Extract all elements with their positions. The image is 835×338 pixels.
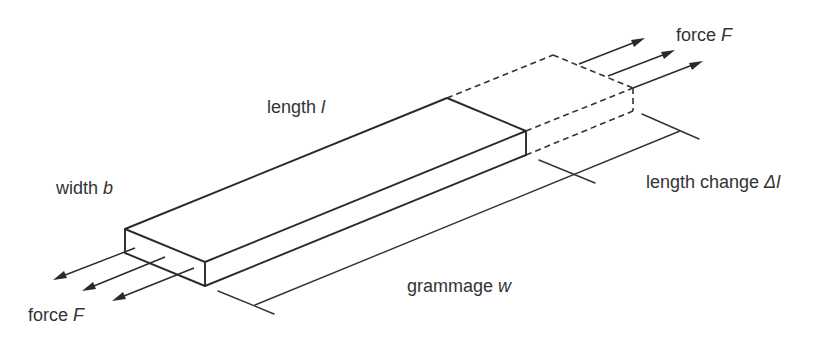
force-arrow-left-1 [60,248,135,277]
tensile-specimen-diagram: length l force F width b force F length … [0,0,835,338]
specimen-strip [125,98,526,286]
length-change-label: length change Δl [646,172,781,192]
arrowhead-icon [689,61,703,70]
width-label: width b [55,178,113,198]
force-label-top: force F [676,25,733,45]
left-tick [218,291,274,314]
force-arrow-right-3 [633,64,695,88]
arrowhead-icon [82,282,96,291]
force-arrows-right [579,38,703,88]
force-arrow-right-2 [608,53,668,76]
force-label-bottom: force F [28,305,85,325]
dashed-back-top-edge [447,55,553,98]
front-bottom-edge [205,155,526,286]
force-arrow-right-1 [579,41,638,64]
dashed-front-bottom-edge [526,111,633,155]
arrowhead-icon [661,50,675,59]
length-change-start-tick [539,160,595,183]
arrowhead-icon [112,292,126,301]
grammage-label: grammage w [407,276,512,296]
dashed-front-top-edge [526,88,633,131]
arrowhead-icon [631,38,645,47]
elongation-outline [447,55,633,155]
force-arrows-left [53,248,194,301]
arrowhead-icon [53,271,67,280]
force-arrow-left-3 [119,268,194,298]
length-label: length l [267,97,326,117]
